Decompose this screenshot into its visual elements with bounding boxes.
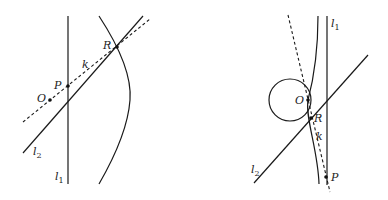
label-k: k	[82, 58, 89, 71]
label-l2: l2	[251, 163, 260, 178]
point-O	[306, 98, 310, 102]
circle	[269, 79, 311, 121]
label-l2: l2	[33, 145, 42, 160]
label-l1: l1	[55, 170, 64, 185]
point-P	[66, 84, 70, 88]
label-P: P	[53, 79, 62, 92]
label-R: R	[313, 112, 322, 125]
label-R: R	[102, 39, 111, 52]
point-R	[309, 116, 313, 120]
label-P: P	[330, 171, 339, 184]
label-O: O	[295, 94, 304, 107]
left-figure: R k P O l2 l1	[23, 16, 150, 185]
right-figure: l1 O R k l2 P	[251, 15, 368, 192]
label-k: k	[316, 130, 323, 143]
geometry-figures: R k P O l2 l1 l1 O R k l2 P	[0, 0, 388, 200]
point-P	[324, 175, 328, 179]
label-O: O	[37, 92, 46, 105]
line-l2	[23, 16, 143, 153]
label-l1: l1	[331, 17, 340, 32]
point-R	[115, 45, 119, 49]
point-O	[48, 98, 52, 102]
